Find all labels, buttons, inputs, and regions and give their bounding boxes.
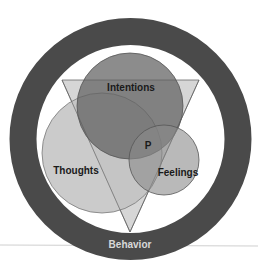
thoughts-label: Thoughts xyxy=(53,165,99,176)
feelings-circle xyxy=(129,125,199,195)
intentions-label: Intentions xyxy=(107,82,155,93)
behavior-label: Behavior xyxy=(109,239,152,250)
center-label-p: P xyxy=(145,140,152,151)
feelings-label: Feelings xyxy=(158,167,199,178)
diagram-canvas: Intentions Thoughts Feelings P Behavior xyxy=(0,0,261,273)
